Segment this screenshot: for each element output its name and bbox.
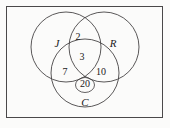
region-count-j-and-c-only: 7: [63, 66, 68, 77]
region-count-r-and-c-only: 10: [96, 66, 106, 77]
region-count-c-only: 20: [80, 78, 90, 89]
venn-diagram-figure: J R C 2 3 7 10 20: [0, 0, 170, 128]
venn-diagram-canvas: J R C 2 3 7 10 20: [0, 0, 170, 128]
region-count-j-and-r-and-c: 3: [80, 51, 85, 62]
set-label-j: J: [55, 37, 61, 49]
set-label-r: R: [109, 37, 117, 49]
region-count-j-and-r-only: 2: [76, 31, 81, 42]
set-label-c: C: [81, 96, 89, 108]
